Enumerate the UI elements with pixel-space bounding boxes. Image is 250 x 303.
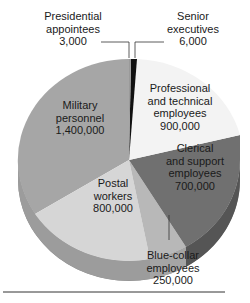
label-bluecollar: Blue-collar employees 250,000 (138, 249, 208, 287)
label-senior: Senior executives 6,000 (158, 10, 228, 48)
label-presidential: Presidential appointees 3,000 (28, 10, 118, 48)
label-clerical: Clerical and support employees 700,000 (155, 142, 235, 192)
label-professional: Professional and technical employees 900… (135, 82, 225, 132)
label-postal: Postal workers 800,000 (78, 177, 148, 215)
label-military: Military personnel 1,400,000 (40, 99, 120, 137)
